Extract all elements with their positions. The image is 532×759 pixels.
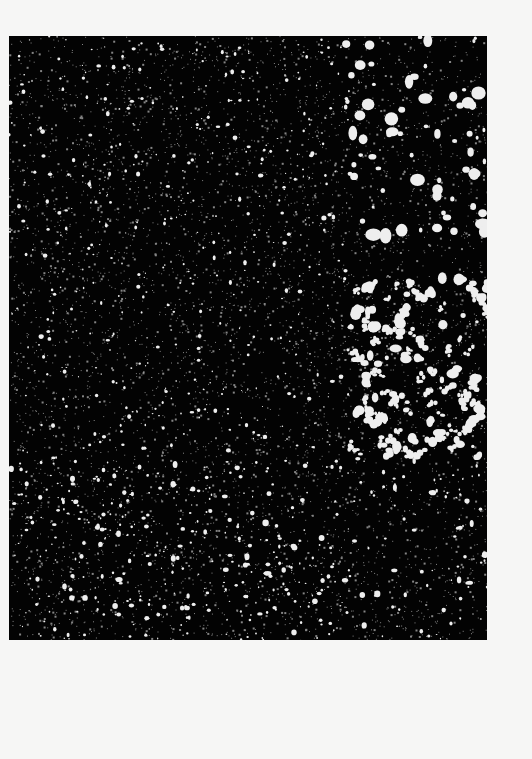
speckle-blob-layer <box>9 36 487 640</box>
speckle-image-panel <box>9 36 487 640</box>
page-background <box>0 0 532 759</box>
